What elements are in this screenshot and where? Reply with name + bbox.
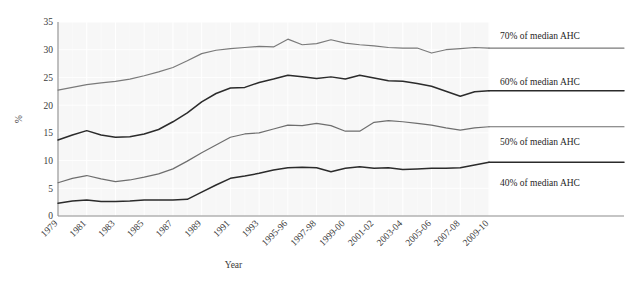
line-chart: 05101520253035%1979198119831985198719891… xyxy=(0,0,631,285)
y-axis-tick-label: 15 xyxy=(44,128,54,138)
series-label-0: 70% of median AHC xyxy=(500,31,580,41)
x-axis-tick-label: 1985 xyxy=(125,218,146,239)
x-axis-tick-label: 2003-04 xyxy=(375,218,405,248)
x-axis-tick-label: 2009-10 xyxy=(461,218,491,248)
series-label-1: 60% of median AHC xyxy=(500,77,580,87)
x-axis-tick-label: 1989 xyxy=(183,218,204,239)
x-axis-tick-label: 2001-02 xyxy=(346,218,376,248)
x-axis-tick-label: 1999-00 xyxy=(317,218,347,248)
series-label-3: 40% of median AHC xyxy=(500,178,580,188)
y-axis-title: % xyxy=(14,115,24,123)
x-axis-tick-label: 1983 xyxy=(96,218,117,239)
x-axis-tick-label: 1997-98 xyxy=(289,218,319,248)
x-axis-tick-label: 1979 xyxy=(39,218,60,239)
y-axis-tick-label: 25 xyxy=(44,73,54,83)
x-axis-tick-label: 1993 xyxy=(240,218,261,239)
chart-container: 05101520253035%1979198119831985198719891… xyxy=(0,0,631,285)
x-axis-tick-label: 2005-06 xyxy=(403,218,433,248)
y-axis-tick-label: 20 xyxy=(44,101,54,111)
series-label-2: 50% of median AHC xyxy=(500,137,580,147)
y-axis-tick-label: 10 xyxy=(44,156,54,166)
x-axis-tick-label: 1991 xyxy=(211,218,232,239)
x-axis-tick-label: 1987 xyxy=(154,218,175,239)
x-axis-tick-label: 2007-08 xyxy=(432,218,462,248)
y-axis-tick-label: 5 xyxy=(48,184,53,194)
x-axis-title: Year xyxy=(225,260,243,270)
x-axis-tick-label: 1995-96 xyxy=(260,218,290,248)
y-axis-tick-label: 30 xyxy=(44,45,54,55)
y-axis-tick-label: 35 xyxy=(44,17,54,27)
x-axis-tick-label: 1981 xyxy=(68,218,89,239)
